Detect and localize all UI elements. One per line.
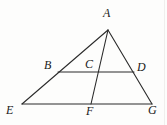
vertex-label-c: C (85, 58, 93, 70)
segment-AE (22, 30, 108, 104)
vertex-label-a: A (103, 7, 110, 19)
vertex-label-d: D (137, 61, 146, 73)
vertex-label-f: F (86, 105, 93, 117)
segment-AF (91, 30, 108, 104)
vertex-label-b: B (44, 59, 51, 71)
geometry-figure: A B C D E F G (0, 0, 167, 125)
vertex-label-g: G (148, 104, 157, 116)
vertex-label-e: E (6, 104, 13, 116)
scan-edge-artifact (164, 0, 165, 125)
